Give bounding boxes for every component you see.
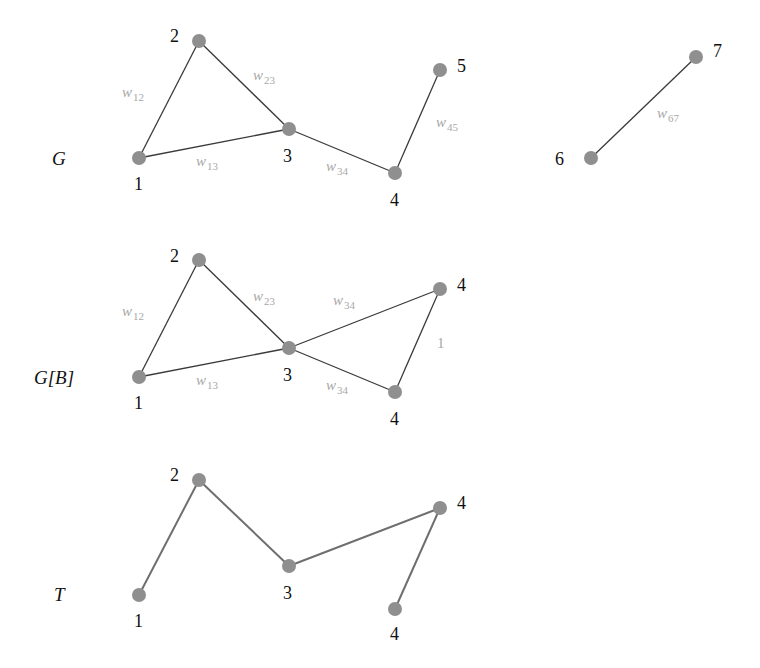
panel-G: Gw12w23w13w34w45w671234567 <box>52 26 722 210</box>
node-1 <box>132 588 146 602</box>
panel-GB: G[B]w12w23w13w34w34112344 <box>34 246 466 429</box>
edge-weight-label: w13 <box>196 153 219 172</box>
edge-weight-label: w34 <box>326 377 349 396</box>
edge-2-3 <box>199 41 289 129</box>
graph-label: G <box>52 148 66 169</box>
node-label: 1 <box>134 611 143 631</box>
node-2 <box>192 253 206 267</box>
edge-6-7 <box>591 57 696 158</box>
node-label: 3 <box>283 146 292 166</box>
node-3 <box>282 122 296 136</box>
edge-1-2 <box>139 260 199 377</box>
node-label: 7 <box>713 41 722 61</box>
node-6 <box>584 151 598 165</box>
node-4b <box>388 602 402 616</box>
node-4b <box>388 385 402 399</box>
edge-weight-label: w13 <box>196 372 219 391</box>
edge-weight-label: w12 <box>122 303 144 322</box>
node-label: 5 <box>457 56 466 76</box>
edge-weight-label: w23 <box>253 67 276 86</box>
edge-2-3 <box>199 260 289 348</box>
node-label: 4 <box>390 409 399 429</box>
node-label: 6 <box>555 149 564 169</box>
node-2 <box>192 473 206 487</box>
node-label: 2 <box>170 465 179 485</box>
edge-1-3 <box>139 348 289 377</box>
node-3 <box>282 341 296 355</box>
node-label: 3 <box>283 583 292 603</box>
node-label: 4 <box>390 624 399 644</box>
edge-weight-label: w45 <box>436 114 459 133</box>
edge-1-2 <box>139 480 199 595</box>
node-4 <box>388 166 402 180</box>
edge-weight-label: w34 <box>326 158 349 177</box>
node-5 <box>433 63 447 77</box>
edge-weight-label: w34 <box>333 292 356 311</box>
edge-2-3 <box>199 480 289 566</box>
node-label: 4 <box>457 493 466 513</box>
edge-1-2 <box>139 41 199 158</box>
edge-1-3 <box>139 129 289 158</box>
edge-weight-label: 1 <box>437 335 445 351</box>
graph-label: G[B] <box>34 367 74 388</box>
graph-diagram: Gw12w23w13w34w45w671234567G[B]w12w23w13w… <box>0 0 760 668</box>
node-3 <box>282 559 296 573</box>
node-label: 3 <box>283 365 292 385</box>
node-label: 4 <box>390 190 399 210</box>
node-label: 1 <box>134 393 143 413</box>
node-4a <box>433 501 447 515</box>
node-2 <box>192 34 206 48</box>
node-label: 1 <box>134 174 143 194</box>
node-label: 2 <box>170 26 179 46</box>
edge-4-5 <box>395 70 440 173</box>
edge-weight-label: w23 <box>253 288 276 307</box>
node-1 <box>132 151 146 165</box>
node-1 <box>132 370 146 384</box>
edge-weight-label: w12 <box>122 84 144 103</box>
node-4a <box>433 282 447 296</box>
node-label: 2 <box>170 246 179 266</box>
panel-T: T12344 <box>54 465 466 644</box>
edge-3-4a <box>289 289 440 348</box>
edge-weight-label: w67 <box>657 105 680 124</box>
node-label: 4 <box>457 275 466 295</box>
graph-label: T <box>54 584 66 605</box>
node-7 <box>689 50 703 64</box>
